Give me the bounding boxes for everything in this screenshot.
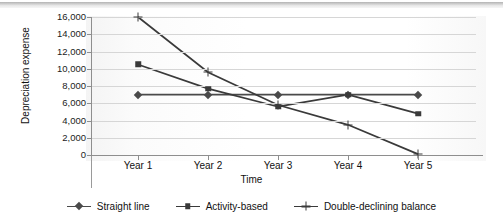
y-axis-tick-labels: 16,00014,00012,00010,0008,0006,0004,0002… <box>30 8 86 220</box>
x-tick-label: Year 5 <box>383 160 453 171</box>
legend-diamond-icon <box>67 201 91 212</box>
gridline <box>91 34 476 35</box>
legend-label: Straight line <box>97 201 150 212</box>
legend-item[interactable]: Activity-based <box>176 201 268 212</box>
gridline <box>91 121 476 122</box>
y-tick-label: 0 <box>34 150 86 160</box>
data-point-marker <box>344 120 353 129</box>
y-axis-title: Depreciation expense <box>20 6 31 146</box>
x-tick-label: Year 4 <box>313 160 383 171</box>
x-axis-line <box>91 155 483 156</box>
y-tick-label: 4,000 <box>34 116 86 126</box>
gridline <box>91 17 476 18</box>
legend-label: Activity-based <box>206 201 268 212</box>
data-point-marker <box>204 68 213 77</box>
y-tick-label: 14,000 <box>34 29 86 39</box>
gridline <box>91 138 476 139</box>
x-tick-label: Year 1 <box>103 160 173 171</box>
data-point-marker <box>415 111 421 117</box>
data-point-marker <box>134 13 143 22</box>
x-tick-label: Year 3 <box>243 160 313 171</box>
data-point-marker <box>274 100 283 109</box>
gridline <box>91 86 476 87</box>
legend-label: Double-declining balance <box>324 201 436 212</box>
y-tick-label: 10,000 <box>34 64 86 74</box>
data-point-marker <box>205 86 211 92</box>
y-tick-label: 16,000 <box>34 12 86 22</box>
gridline <box>91 103 476 104</box>
x-axis-title: Time <box>0 174 503 185</box>
gridline <box>91 52 476 53</box>
y-tick-label: 12,000 <box>34 47 86 57</box>
y-tick-label: 6,000 <box>34 98 86 108</box>
legend-cross-icon <box>294 201 318 212</box>
data-point-marker <box>135 62 141 68</box>
y-tick-label: 8,000 <box>34 81 86 91</box>
legend-square-icon <box>176 201 200 212</box>
top-divider-band <box>0 0 503 8</box>
legend-item[interactable]: Double-declining balance <box>294 201 436 212</box>
chart-figure: Depreciation expense 16,00014,00012,0001… <box>0 8 503 220</box>
y-axis-line <box>91 17 92 156</box>
y-tick-label: 2,000 <box>34 133 86 143</box>
chart-legend: Straight lineActivity-basedDouble-declin… <box>0 196 503 216</box>
legend-item[interactable]: Straight line <box>67 201 150 212</box>
x-tick-label: Year 2 <box>173 160 243 171</box>
plot-area <box>91 17 476 155</box>
gridline <box>91 69 476 70</box>
data-point-marker <box>345 92 351 98</box>
